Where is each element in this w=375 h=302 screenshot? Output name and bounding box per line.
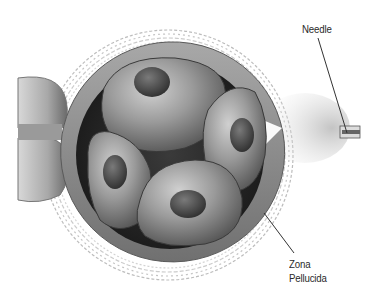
needle [340,126,360,138]
needle-label: Needle [302,23,332,36]
zona-leader-line [264,213,294,253]
zona-pellucida-label-line2: Pellucida [289,272,327,285]
nucleus [103,155,127,189]
embryo-illustration [0,0,375,302]
nucleus [134,67,170,97]
holding-pipette [18,77,68,202]
nucleus [170,190,206,218]
zona-pellucida-label-line1: Zona [289,258,310,271]
nucleus [230,118,254,152]
